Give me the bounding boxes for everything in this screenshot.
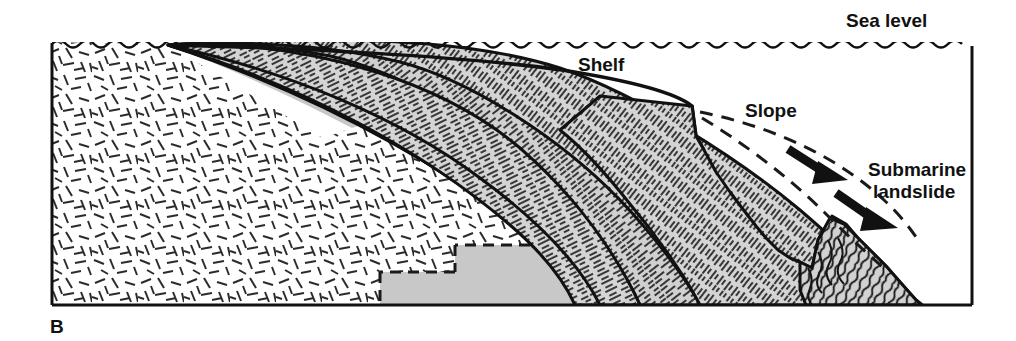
shelf-label: Shelf bbox=[578, 54, 625, 75]
submarine-landslide-label-line2: landslide bbox=[873, 181, 955, 202]
submarine-landslide-label-line1: Submarine bbox=[868, 159, 966, 180]
section-body bbox=[52, 40, 972, 305]
slope-label: Slope bbox=[745, 100, 797, 121]
panel-letter-b: B bbox=[50, 316, 64, 337]
figure-panel-b: Sea level Shelf Slope Submarine landslid… bbox=[0, 0, 1016, 341]
cross-section-diagram: Sea level Shelf Slope Submarine landslid… bbox=[0, 0, 1016, 341]
sea-level-label: Sea level bbox=[846, 10, 927, 31]
